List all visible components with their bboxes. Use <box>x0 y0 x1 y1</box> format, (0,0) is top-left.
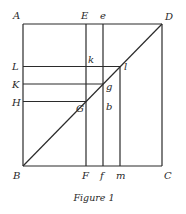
label-f: f <box>99 170 106 181</box>
label-D: D <box>164 11 173 22</box>
label-F: F <box>81 170 90 181</box>
label-E: E <box>80 10 89 21</box>
label-b: b <box>106 101 112 112</box>
label-K: K <box>11 79 20 90</box>
figure-caption: Figure 1 <box>72 192 114 203</box>
label-l: l <box>124 61 127 72</box>
label-A: A <box>12 10 20 21</box>
label-G: G <box>76 103 84 114</box>
label-C: C <box>164 170 172 181</box>
diagonal-BD <box>23 24 162 166</box>
label-m: m <box>116 170 125 181</box>
label-k: k <box>88 54 94 65</box>
label-g: g <box>106 81 112 92</box>
label-L: L <box>11 61 19 72</box>
label-H: H <box>11 97 21 108</box>
label-e: e <box>100 10 106 21</box>
geometric-figure: A E e D L K H k l g G b B F f m C Figure… <box>0 0 186 214</box>
label-B: B <box>12 170 20 181</box>
